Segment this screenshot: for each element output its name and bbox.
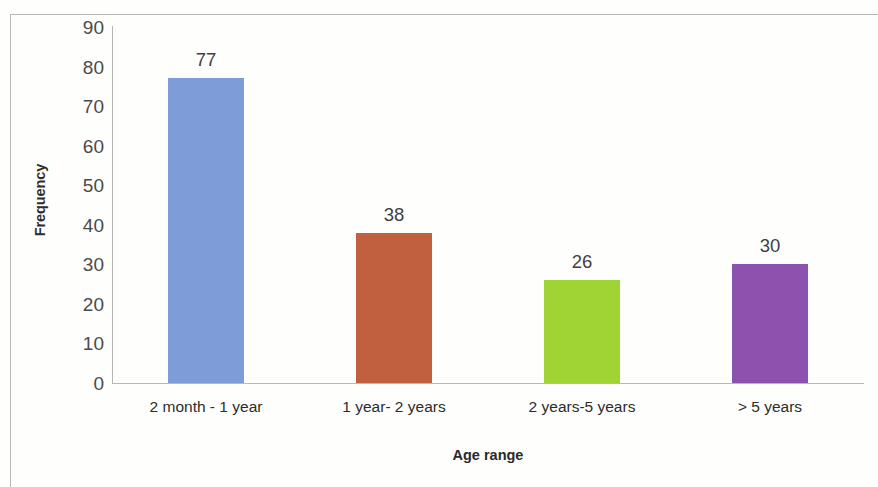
bar-chart: Frequency 9080706050403020100 77382630 A… (0, 0, 878, 487)
y-axis-tick-label: 90 (58, 18, 104, 37)
plot-area: 77382630 (112, 27, 864, 383)
x-axis-title: Age range (112, 447, 864, 463)
x-axis-tick-label: 2 years-5 years (488, 398, 676, 416)
y-axis-tick-label: 0 (58, 374, 104, 393)
x-axis-line (112, 383, 864, 384)
y-axis-tick-label: 70 (58, 97, 104, 116)
bar-value-label: 77 (196, 49, 217, 71)
y-axis-tick-label: 10 (58, 334, 104, 353)
bar: 77 (168, 78, 244, 383)
x-axis-tick-label: 1 year- 2 years (300, 398, 488, 416)
x-axis-tick-label: > 5 years (676, 398, 864, 416)
y-axis-tick-label: 50 (58, 176, 104, 195)
bar-value-label: 26 (572, 251, 593, 273)
y-axis-tick-labels: 9080706050403020100 (52, 0, 104, 487)
scanned-page: Frequency 9080706050403020100 77382630 A… (0, 0, 878, 487)
y-axis-tick-label: 60 (58, 137, 104, 156)
y-axis-title: Frequency (32, 140, 48, 260)
y-axis-tick-label: 40 (58, 216, 104, 235)
bar: 38 (356, 233, 432, 383)
y-axis-tick-label: 20 (58, 295, 104, 314)
x-axis-tick-label: 2 month - 1 year (112, 398, 300, 416)
y-axis-tick-label: 30 (58, 255, 104, 274)
bar-value-label: 30 (760, 235, 781, 257)
bar-value-label: 38 (384, 204, 405, 226)
y-axis-tick-label: 80 (58, 58, 104, 77)
bar: 30 (732, 264, 808, 383)
bar: 26 (544, 280, 620, 383)
